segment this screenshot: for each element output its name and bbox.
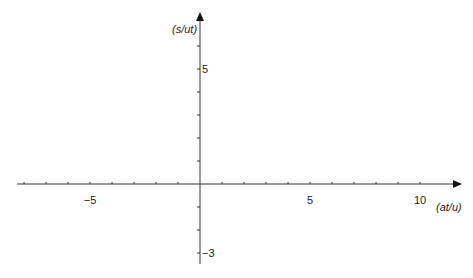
tick-labels: −55105−3 [84, 63, 426, 259]
y-axis-title: (s/ut) [172, 23, 197, 35]
x-tick-label: 5 [307, 194, 313, 206]
axes [17, 12, 462, 264]
y-tick-label: 5 [202, 63, 208, 75]
x-tick-label: −5 [84, 194, 97, 206]
x-tick-label: 10 [414, 194, 426, 206]
x-axis-title: (at/u) [436, 201, 462, 213]
y-axis-arrow-icon [196, 12, 204, 21]
chart-canvas: −55105−3 (at/u) (s/ut) [0, 0, 473, 278]
ticks [24, 46, 420, 253]
y-tick-label: −3 [202, 247, 215, 259]
x-axis-arrow-icon [453, 180, 462, 188]
